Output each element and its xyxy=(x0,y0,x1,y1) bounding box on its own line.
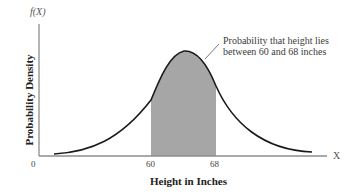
x-tick-68: 68 xyxy=(210,159,219,169)
annotation: Probability that height lies between 60 … xyxy=(223,35,329,57)
x-axis-symbol: X xyxy=(333,150,340,161)
x-axis-label: Height in Inches xyxy=(150,175,227,187)
x-tick-60: 60 xyxy=(146,159,155,169)
y-axis-label: Probability Density xyxy=(23,45,35,155)
annotation-line-2: between 60 and 68 inches xyxy=(223,46,329,57)
y-axis-symbol: f(X) xyxy=(30,6,46,17)
annotation-line-1: Probability that height lies xyxy=(223,35,329,46)
chart-canvas xyxy=(0,0,355,196)
x-tick-0: 0 xyxy=(31,159,36,169)
annotation-leader-line xyxy=(205,44,219,59)
